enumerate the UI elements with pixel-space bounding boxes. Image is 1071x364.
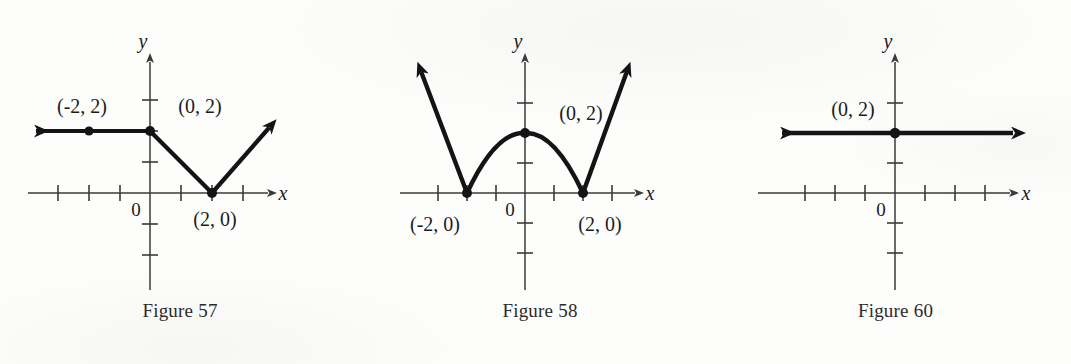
figure-panel-57: y x 0 (-2, 2) (0, 2) (2, 0) Figure 57 [0, 0, 360, 364]
figure-panel-60: y x 0 (0, 2) Figure 60 [720, 0, 1071, 364]
y-axis-58 [517, 62, 533, 290]
label-point-minus2-2: (-2, 2) [57, 95, 107, 118]
graph-ascending-ray-57 [212, 129, 268, 193]
point-marker-0-2 [145, 126, 155, 136]
origin-label-58: 0 [505, 199, 515, 220]
x-axis-57 [28, 185, 268, 201]
y-axis-label-60: y [882, 30, 893, 53]
label-point-minus2-0: (-2, 0) [410, 213, 460, 236]
origin-label-57: 0 [131, 199, 141, 220]
figure-caption-57: Figure 57 [0, 300, 360, 322]
label-point-0-2: (0, 2) [178, 95, 221, 118]
figure-57-graph: y x 0 (-2, 2) (0, 2) (2, 0) [0, 0, 360, 300]
point-marker-0-2 [890, 128, 900, 138]
graph-left-ray-58 [422, 74, 467, 193]
x-axis-label-60: x [1021, 182, 1031, 204]
figure-page: y x 0 (-2, 2) (0, 2) (2, 0) Figure 57 [0, 0, 1071, 364]
x-axis-58 [400, 185, 635, 201]
figure-caption-60: Figure 60 [720, 300, 1071, 322]
figure-58-graph: y x 0 (-2, 0) (0, 2) (2, 0) [360, 0, 720, 300]
figure-60-graph: y x 0 (0, 2) [720, 0, 1071, 300]
y-axis-60 [887, 62, 903, 290]
point-marker-2-0 [578, 188, 588, 198]
label-point-2-0: (2, 0) [193, 208, 236, 231]
figure-panel-58: y x 0 (-2, 0) (0, 2) (2, 0) Figure 58 [360, 0, 720, 364]
label-point-0-2: (0, 2) [559, 102, 602, 125]
point-marker-0-2 [520, 128, 530, 138]
y-axis-label-57: y [137, 30, 148, 53]
point-marker-minus2-0 [462, 188, 472, 198]
graph-right-ray-58 [583, 74, 626, 193]
y-axis-label-58: y [512, 30, 523, 53]
graph-descending-segment-57 [150, 131, 212, 193]
y-axis-57 [142, 62, 158, 290]
x-axis-label-57: x [278, 182, 288, 204]
label-point-2-0: (2, 0) [578, 213, 621, 236]
label-point-0-2: (0, 2) [831, 98, 874, 121]
origin-label-60: 0 [876, 199, 886, 220]
figure-caption-58: Figure 58 [360, 300, 720, 322]
point-marker-2-0 [207, 188, 217, 198]
x-axis-label-58: x [645, 182, 655, 204]
point-marker-minus2-2 [84, 126, 93, 135]
